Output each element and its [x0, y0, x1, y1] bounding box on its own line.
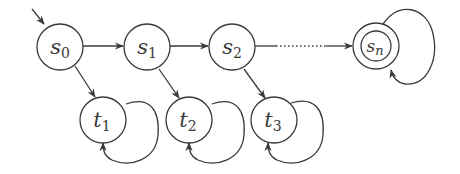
initial-arrow — [32, 9, 44, 24]
state-s0: s0 — [37, 24, 83, 70]
state-t1: t1 — [80, 97, 126, 143]
edge-s0-t1 — [75, 66, 95, 97]
state-s2: s2 — [209, 24, 255, 70]
state-sn-accepting: sn — [353, 23, 399, 69]
state-diagram: s0 s1 s2 sn t1 t2 t3 — [0, 0, 460, 174]
state-t3: t3 — [251, 97, 297, 143]
state-t2: t2 — [166, 97, 212, 143]
edge-s2-t3 — [244, 69, 265, 98]
state-s1: s1 — [124, 24, 170, 70]
edge-s1-t2 — [159, 69, 179, 98]
